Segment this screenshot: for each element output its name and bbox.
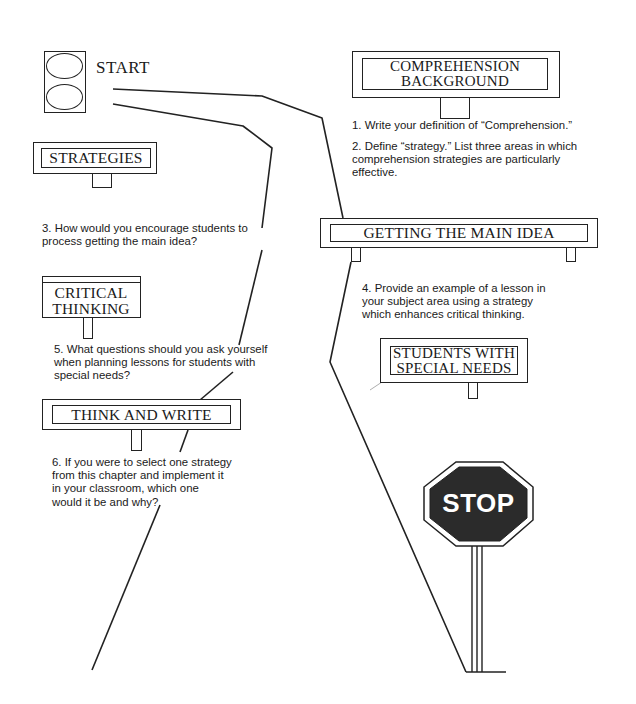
question-line: from this chapter and implement it <box>52 469 232 482</box>
sign-getting-main-idea: GETTING THE MAIN IDEA <box>320 218 598 248</box>
sign-label-box: COMPREHENSION BACKGROUND <box>362 58 548 90</box>
sign-post <box>131 429 142 451</box>
sign-post-left <box>351 247 361 262</box>
question-line: 3. How would you encourage students to <box>42 222 248 235</box>
sign-post <box>440 97 470 119</box>
question-line: 5. What questions should you ask yoursel… <box>54 343 267 356</box>
sign-label-box: STRATEGIES <box>41 148 151 168</box>
stop-sign-label: STOP <box>430 488 527 519</box>
question-line: effective. <box>352 166 577 179</box>
sign-line: CRITICAL <box>54 285 127 301</box>
question-line: which enhances critical thinking. <box>362 308 546 321</box>
question-3: 3. How would you encourage students to p… <box>42 222 248 248</box>
sign-label-box: CRITICAL THINKING <box>42 282 141 318</box>
road-right-edge-lower <box>330 262 466 672</box>
sign-post <box>83 317 93 339</box>
question-line: process getting the main idea? <box>42 235 248 248</box>
sign-line: STRATEGIES <box>49 150 142 166</box>
sign-strategies: STRATEGIES <box>33 142 157 174</box>
sign-line: STUDENTS WITH <box>393 346 515 361</box>
question-line: would it be and why? <box>52 496 232 509</box>
question-line: special needs? <box>54 369 267 382</box>
road-left-edge-mid <box>239 250 262 345</box>
road-map-diagram: STOP START COMPREHENSION BACKGROUND 1. W… <box>0 0 636 704</box>
sign-label-box: STUDENTS WITH SPECIAL NEEDS <box>390 346 518 375</box>
question-line: when planning lessons for students with <box>54 356 267 369</box>
question-5: 5. What questions should you ask yoursel… <box>54 343 267 383</box>
sign-line: COMPREHENSION <box>390 59 520 74</box>
question-2: 2. Define “strategy.” List three areas i… <box>352 140 577 180</box>
question-line: 6. If you were to select one strategy <box>52 456 232 469</box>
question-line: 4. Provide an example of a lesson in <box>362 282 546 295</box>
sign-line: THINK AND WRITE <box>71 407 211 423</box>
start-label: START <box>96 58 150 78</box>
road-left-edge-lower <box>92 505 160 670</box>
traffic-light-lamp-bottom <box>46 84 83 110</box>
question-1: 1. Write your definition of “Comprehensi… <box>352 119 572 132</box>
sign-line: GETTING THE MAIN IDEA <box>363 225 554 241</box>
sign-line: BACKGROUND <box>401 74 509 89</box>
sign-line: SPECIAL NEEDS <box>397 361 512 376</box>
sign-post <box>92 173 112 188</box>
sign-line: THINKING <box>52 301 129 317</box>
question-line: in your classroom, which one <box>52 482 232 495</box>
sign-comprehension-background: COMPREHENSION BACKGROUND <box>352 51 560 98</box>
question-line: comprehension strategies are particularl… <box>352 153 577 166</box>
sign-label-box: THINK AND WRITE <box>52 405 231 424</box>
road-left-edge-mid3 <box>180 430 188 452</box>
sign-post-right <box>566 247 576 262</box>
sign-label-box: GETTING THE MAIN IDEA <box>330 224 588 242</box>
question-6: 6. If you were to select one strategy fr… <box>52 456 232 509</box>
traffic-light-lamp-top <box>46 53 83 79</box>
question-line: 2. Define “strategy.” List three areas i… <box>352 140 577 153</box>
sign-students-special-needs: STUDENTS WITH SPECIAL NEEDS <box>380 338 528 383</box>
sign-critical-thinking: CRITICAL THINKING <box>42 276 141 318</box>
traffic-light-icon <box>44 51 86 113</box>
question-line: your subject area using a strategy <box>362 295 546 308</box>
sign-think-and-write: THINK AND WRITE <box>42 399 241 430</box>
sign-post <box>468 382 478 399</box>
question-4: 4. Provide an example of a lesson in you… <box>362 282 546 322</box>
